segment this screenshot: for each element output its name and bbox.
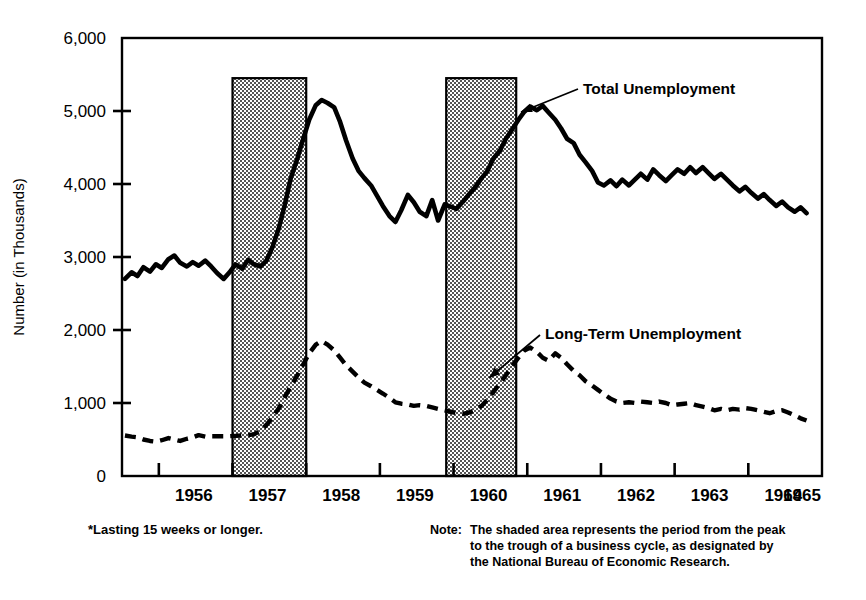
y-tick-label: 1,000: [63, 394, 106, 413]
x-tick-label: 1963: [691, 486, 729, 505]
y-tick-label: 2,000: [63, 321, 106, 340]
y-tick-label: 6,000: [63, 29, 106, 48]
x-tick-label: 1965: [783, 486, 821, 505]
note-line-2: to the trough of a business cycle, as de…: [470, 539, 774, 553]
y-tick-label: 5,000: [63, 102, 106, 121]
long-term-unemployment-label: Long-Term Unemployment: [545, 325, 741, 342]
unemployment-line-chart: 01,0002,0003,0004,0005,0006,000 19561957…: [0, 0, 866, 600]
y-tick-label: 3,000: [63, 248, 106, 267]
note-line-3: the National Bureau of Economic Research…: [470, 555, 730, 569]
x-tick-label: 1958: [322, 486, 360, 505]
recession-1957-1958: [233, 78, 307, 476]
y-axis-title: Number (in Thousands): [10, 178, 27, 335]
x-tick-label: 1956: [175, 486, 213, 505]
x-tick-label: 1960: [470, 486, 508, 505]
note-prefix: Note:: [430, 523, 462, 537]
x-tick-label: 1962: [617, 486, 655, 505]
chart-figure: 01,0002,0003,0004,0005,0006,000 19561957…: [0, 0, 866, 600]
y-tick-label: 0: [97, 467, 106, 486]
note-line-1: The shaded area represents the period fr…: [470, 523, 785, 537]
footnote-lasting-weeks: *Lasting 15 weeks or longer.: [88, 522, 263, 537]
total-unemployment-label: Total Unemployment: [583, 80, 735, 97]
x-tick-label: 1957: [249, 486, 287, 505]
x-tick-label: 1959: [396, 486, 434, 505]
y-tick-label: 4,000: [63, 175, 106, 194]
x-tick-label: 1961: [543, 486, 581, 505]
chart-background: [0, 0, 866, 600]
